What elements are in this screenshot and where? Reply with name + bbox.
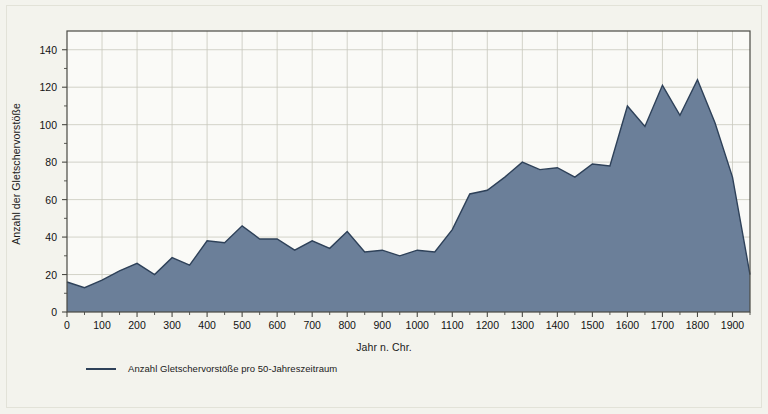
chart-legend: Anzahl Gletschervorstöße pro 50-Jahresze… (86, 363, 337, 374)
y-tick-label: 0 (51, 306, 57, 318)
x-tick-label: 1400 (546, 319, 570, 331)
x-tick-label: 1500 (581, 319, 605, 331)
x-tick-label: 500 (233, 319, 251, 331)
x-tick-label: 800 (338, 319, 356, 331)
x-tick-label: 0 (64, 319, 70, 331)
legend-label: Anzahl Gletschervorstöße pro 50-Jahresze… (128, 363, 337, 374)
x-tick-label: 900 (373, 319, 391, 331)
x-tick-label: 1700 (651, 319, 675, 331)
x-tick-label: 1600 (616, 319, 640, 331)
x-tick-label: 1800 (686, 319, 710, 331)
y-tick-label: 40 (45, 231, 57, 243)
y-tick-label: 140 (39, 44, 57, 56)
x-tick-label: 1200 (476, 319, 500, 331)
x-tick-label: 1300 (511, 319, 535, 331)
y-tick-label: 60 (45, 194, 57, 206)
y-tick-label: 100 (39, 119, 57, 131)
chart-figure: 0100200300400500600700800900100011001200… (0, 0, 768, 414)
x-tick-label: 600 (268, 319, 286, 331)
y-axis-title: Anzahl der Gletschervorstöße (10, 74, 22, 274)
x-tick-label: 700 (303, 319, 321, 331)
y-tick-label: 120 (39, 81, 57, 93)
x-tick-label: 400 (198, 319, 216, 331)
x-tick-label: 200 (128, 319, 146, 331)
x-tick-label: 300 (163, 319, 181, 331)
x-tick-label: 1000 (406, 319, 430, 331)
x-tick-label: 100 (93, 319, 111, 331)
y-tick-label: 20 (45, 269, 57, 281)
x-tick-label: 1100 (441, 319, 464, 331)
y-tick-label: 80 (45, 156, 57, 168)
x-tick-label: 1900 (721, 319, 745, 331)
legend-line-swatch (86, 368, 116, 370)
x-axis-title: Jahr n. Chr. (0, 341, 768, 353)
